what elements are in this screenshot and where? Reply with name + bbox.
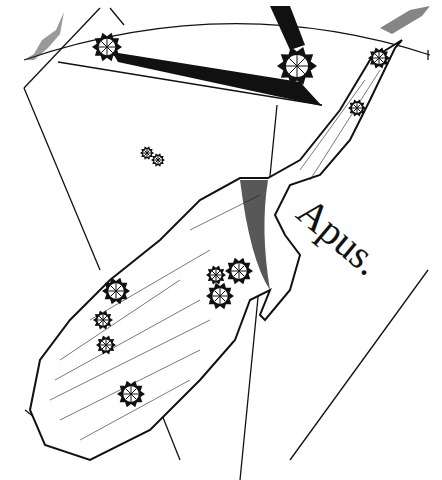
star-icon	[140, 146, 154, 159]
star-icon	[151, 153, 165, 166]
dotted-milky-way	[24, 6, 430, 60]
